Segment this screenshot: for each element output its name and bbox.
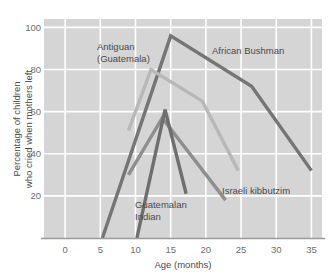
series-label-guatemalan-indian-line1: Guatemalan	[135, 199, 187, 210]
series-label-african-bushman: African Bushman	[212, 45, 284, 56]
series-label-guatemalan-indian-line2: Indian	[135, 211, 161, 222]
y-axis-title-line1: Percentage of children	[11, 81, 22, 176]
x-tick-label-30: 30	[271, 244, 282, 255]
x-tick-label-5: 5	[98, 244, 103, 255]
series-label-antiguan-line2: (Guatemala)	[97, 53, 150, 64]
x-axis-tick-labels: 05101520253035	[62, 244, 316, 255]
x-tick-label-35: 35	[306, 244, 317, 255]
x-tick-label-20: 20	[201, 244, 212, 255]
x-tick-label-0: 0	[62, 244, 67, 255]
series-label-antiguan-line1: Antiguan	[97, 41, 135, 52]
x-tick-label-15: 15	[165, 244, 176, 255]
y-axis-title-line2: who cried when mothers left	[23, 70, 34, 190]
line-chart: 20406080100 05101520253035 Age (months) …	[0, 0, 331, 279]
series-label-israeli-kibbutzim: Israeli kibbutzim	[222, 185, 290, 196]
x-tick-label-10: 10	[130, 244, 141, 255]
y-tick-label-100: 100	[25, 22, 41, 33]
x-tick-label-25: 25	[236, 244, 247, 255]
figure-container: 20406080100 05101520253035 Age (months) …	[0, 0, 331, 279]
y-tick-label-20: 20	[30, 190, 41, 201]
x-axis-title: Age (months)	[154, 259, 211, 270]
